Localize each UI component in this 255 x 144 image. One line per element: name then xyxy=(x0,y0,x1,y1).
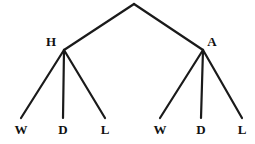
tree-edges-layer xyxy=(0,0,255,144)
tree-edge-a-w xyxy=(160,50,203,118)
tree-edge-a-d xyxy=(201,50,203,118)
internal-node-label-a: A xyxy=(207,35,216,48)
tree-edge-h-d xyxy=(63,50,64,118)
tree-edge-h-l xyxy=(64,50,105,118)
tree-edge-h-w xyxy=(21,50,64,118)
leaf-node-label-h-l: L xyxy=(101,123,110,136)
edges-group xyxy=(21,4,242,118)
internal-node-label-h: H xyxy=(46,35,56,48)
leaf-node-label-a-w: W xyxy=(154,123,167,136)
tree-diagram-canvas: HAWDLWDL xyxy=(0,0,255,144)
tree-edge-a-l xyxy=(203,50,242,118)
leaf-node-label-a-l: L xyxy=(238,123,247,136)
leaf-node-label-a-d: D xyxy=(196,123,205,136)
tree-edge-root-a xyxy=(134,4,203,50)
leaf-node-label-h-w: W xyxy=(15,123,28,136)
leaf-node-label-h-d: D xyxy=(58,123,67,136)
tree-edge-root-h xyxy=(64,4,134,50)
